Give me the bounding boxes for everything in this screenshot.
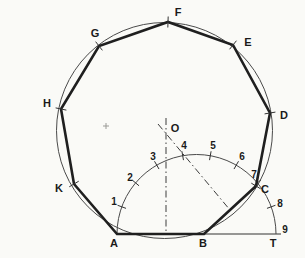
arc-division-label-1: 1 [111, 197, 117, 207]
vertex-label-A: A [110, 238, 118, 249]
vertex-label-D: D [280, 110, 288, 121]
vertex-label-E: E [244, 37, 251, 48]
vertex-label-B: B [199, 238, 207, 249]
arc-division-label-7: 7 [251, 170, 257, 180]
arc-division-tick-3 [155, 161, 160, 169]
vertex-label-G: G [91, 28, 100, 39]
arc-division-label-6: 6 [239, 152, 245, 162]
arc-division-label-8: 8 [277, 199, 283, 209]
arc-division-tick-6 [234, 161, 239, 169]
vertex-label-F: F [175, 7, 182, 18]
arc-division-label-5: 5 [210, 141, 216, 151]
center-label-O: O [171, 123, 180, 134]
nonagon-construction-figure: ABCDEFGHK123456789OT [0, 0, 305, 258]
arc-division-label-9: 9 [282, 225, 288, 235]
vertex-label-C: C [261, 184, 269, 195]
vertex-label-H: H [43, 98, 51, 109]
circumscribed-circle [57, 23, 273, 239]
perpendicular-bisector-bc [158, 124, 230, 210]
arc-division-label-4: 4 [181, 141, 187, 151]
arc-division-label-3: 3 [150, 152, 156, 162]
construction-drawing [0, 0, 305, 258]
vertex-label-K: K [55, 183, 63, 194]
arc-division-label-2: 2 [127, 173, 133, 183]
tangent-label-T: T [270, 238, 277, 249]
